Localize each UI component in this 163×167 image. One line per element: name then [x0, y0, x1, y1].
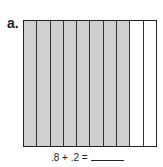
grid-column-shaded [90, 21, 103, 146]
grid-column-shaded [64, 21, 77, 146]
grid-column-shaded [117, 21, 130, 146]
decimal-grid [23, 20, 157, 147]
grid-column-shaded [77, 21, 90, 146]
equation-text: .8 + .2 = [51, 152, 88, 163]
equation: .8 + .2 = [51, 152, 124, 163]
grid-column-shaded [104, 21, 117, 146]
answer-blank[interactable] [91, 152, 124, 161]
grid-column-shaded [37, 21, 50, 146]
grid-column-shaded [24, 21, 37, 146]
problem-label: a. [7, 15, 19, 31]
grid-column-empty [130, 21, 143, 146]
grid-column-shaded [51, 21, 64, 146]
grid-column-empty [144, 21, 156, 146]
